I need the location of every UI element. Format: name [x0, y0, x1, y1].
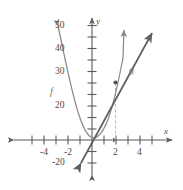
- curve-f-label: f: [50, 87, 53, 97]
- x-tick-label-2: 2: [113, 148, 118, 158]
- y-axis-label: y: [96, 17, 100, 26]
- x-tick-label-neg4: -4: [40, 148, 48, 158]
- x-axis-label: x: [164, 127, 168, 136]
- intersection-point-dot: [113, 80, 117, 84]
- y-tick-label-neg20: -20: [52, 158, 65, 168]
- y-tick-label-40: 40: [55, 44, 65, 54]
- y-tick-label-20: 20: [55, 101, 65, 111]
- y-tick-label-50: 50: [55, 21, 65, 31]
- y-axis: [88, 18, 97, 175]
- x-tick-label-neg2: -2: [64, 148, 72, 158]
- graph-figure: 50 40 30 20 -20 -4 -2 2 4 y x f g: [0, 0, 183, 190]
- y-tick-label-30: 30: [55, 67, 65, 77]
- curve-g-label: g: [129, 65, 134, 75]
- x-tick-label-4: 4: [137, 148, 142, 158]
- coordinate-plane: [0, 0, 183, 190]
